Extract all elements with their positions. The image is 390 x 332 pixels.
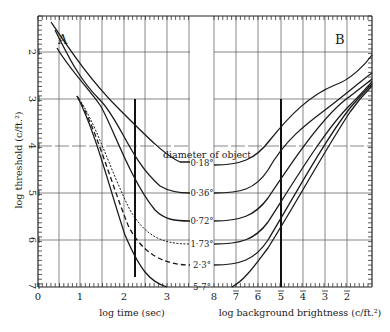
diameter-label: 1·73° xyxy=(190,239,213,249)
x-tick: 3 xyxy=(164,291,170,302)
x-tick: 8 xyxy=(211,291,217,302)
panel-b-curves xyxy=(214,55,372,287)
panel-b-label: B xyxy=(335,32,345,47)
x-tick: 5 xyxy=(278,291,284,302)
x-tick: 6 xyxy=(255,291,261,302)
diameter-label: 5·7° xyxy=(193,282,211,292)
curve-b-5-7 xyxy=(232,86,372,287)
x-axis-label-a: log time (sec) xyxy=(99,307,165,318)
curve-a-0-36 xyxy=(55,30,190,193)
y-tick: 3 xyxy=(27,96,38,102)
y-tick: 7 xyxy=(27,283,38,289)
x-tick: 2 xyxy=(344,291,350,302)
legend-diameters: 0·18° 0·36° 0·72° 1·73° 2·3° 5·7° xyxy=(190,158,213,292)
curve-b-2-3 xyxy=(214,84,372,265)
y-axis-label: log threshold (c/ft.²) xyxy=(13,112,24,209)
x-tick: 1 xyxy=(77,291,83,302)
diameter-label: 0·36° xyxy=(190,188,213,198)
y-tick: 2 xyxy=(27,49,38,55)
curve-a-5-7 xyxy=(77,96,167,287)
diameter-label: 2·3° xyxy=(193,260,211,270)
x-tick-labels-a: 0 1 2 3 xyxy=(35,291,170,302)
threshold-chart: A B diameter of object 0·18° 0·36° 0·72°… xyxy=(0,0,390,332)
diameter-label: 0·18° xyxy=(190,158,213,168)
diameter-label: 0·72° xyxy=(190,216,213,226)
curve-a-1-73 xyxy=(77,96,190,244)
panel-a-label: A xyxy=(57,32,68,47)
y-tick: 4 xyxy=(27,143,38,149)
curve-a-0-18 xyxy=(51,22,190,162)
x-tick: 2 xyxy=(121,291,127,302)
x-axis-label-b: log background brightness (c/ft.²) xyxy=(219,307,382,318)
y-tick: 5 xyxy=(27,190,38,196)
x-tick: 7 xyxy=(233,291,239,302)
x-tick: 4 xyxy=(300,291,306,302)
x-tick: 0 xyxy=(35,291,41,302)
x-tick: 3 xyxy=(322,291,328,302)
x-tick-labels-b: 8 7 6 5 4 3 2 xyxy=(211,291,350,302)
y-tick-labels: 2 3 4 5 6 7 xyxy=(27,49,39,289)
y-tick: 6 xyxy=(27,237,38,243)
curve-b-0-36 xyxy=(214,73,372,193)
